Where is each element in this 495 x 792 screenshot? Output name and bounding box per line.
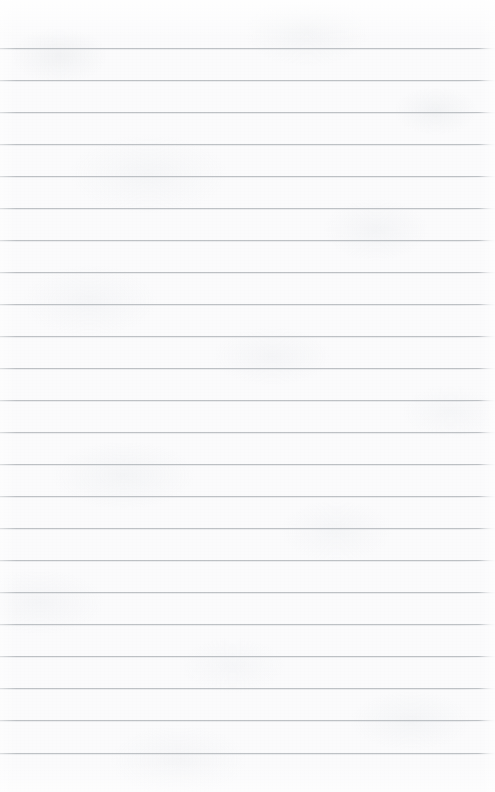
notebook-page [0,0,495,792]
page-body-text[interactable] [0,0,495,792]
